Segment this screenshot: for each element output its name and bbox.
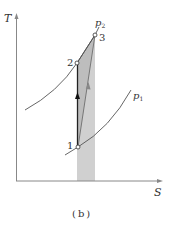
point-1-label: 1 bbox=[67, 140, 73, 151]
p2-label: p2 bbox=[95, 17, 105, 29]
p1-label: p1 bbox=[133, 90, 143, 102]
t-axis-label: T bbox=[4, 12, 13, 25]
s-axis-arrow-icon bbox=[157, 179, 163, 183]
point-2-label: 2 bbox=[67, 57, 73, 68]
state-point-3 bbox=[93, 33, 97, 37]
ts-diagram: T S 1 2 3 p2 p1 (b) bbox=[0, 0, 173, 232]
point-3-label: 3 bbox=[99, 32, 105, 43]
t-axis-arrow-icon bbox=[15, 13, 19, 19]
p1-curve bbox=[65, 90, 131, 155]
figure-caption: (b) bbox=[72, 208, 92, 219]
state-point-2 bbox=[75, 61, 79, 65]
s-axis-label: S bbox=[154, 186, 162, 199]
state-point-1 bbox=[76, 145, 80, 149]
